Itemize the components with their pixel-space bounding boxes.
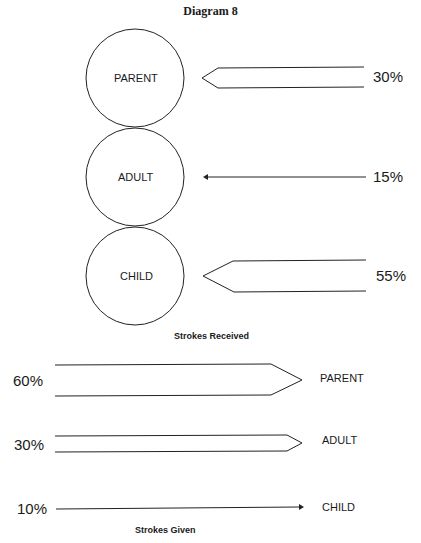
arrowhead-right-icon bbox=[299, 504, 304, 510]
received-parent-arrow bbox=[202, 67, 364, 88]
received-parent-percent: 30% bbox=[373, 68, 403, 85]
given-child-arrow bbox=[56, 507, 300, 509]
given-adult-label: ADULT bbox=[322, 434, 357, 446]
received-caption: Strokes Received bbox=[174, 331, 249, 341]
given-caption: Strokes Given bbox=[135, 525, 196, 535]
given-adult-percent: 30% bbox=[14, 436, 44, 453]
received-child-arrow bbox=[203, 260, 366, 292]
arrowhead-left-icon bbox=[203, 174, 208, 180]
adult-label: ADULT bbox=[118, 171, 153, 183]
parent-label: PARENT bbox=[114, 72, 158, 84]
given-parent-label: PARENT bbox=[320, 372, 364, 384]
given-parent-arrow bbox=[55, 364, 302, 396]
given-adult-arrow bbox=[55, 435, 302, 452]
received-child-percent: 55% bbox=[376, 267, 406, 284]
given-parent-percent: 60% bbox=[13, 372, 43, 389]
diagram-canvas bbox=[0, 0, 421, 543]
given-child-percent: 10% bbox=[17, 500, 47, 517]
received-adult-percent: 15% bbox=[373, 168, 403, 185]
given-child-label: CHILD bbox=[322, 501, 355, 513]
child-label: CHILD bbox=[120, 270, 153, 282]
